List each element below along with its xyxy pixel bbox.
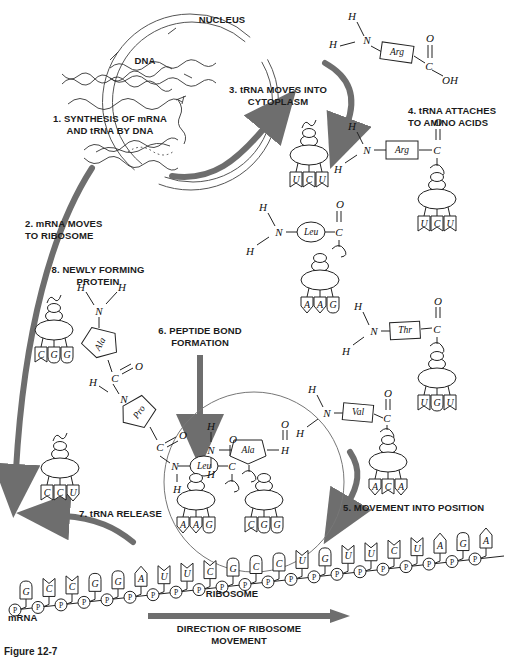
atom-n: N — [323, 407, 330, 419]
phosphate-letter: P — [243, 580, 247, 589]
phosphate-letter: P — [473, 555, 477, 564]
step-6-label: 6. PEPTIDE BOND FORMATION — [158, 325, 241, 348]
amino-acid-leu-charged — [257, 211, 346, 257]
residue-leu: Leu — [304, 227, 318, 237]
step-5-label: 5. MOVEMENT INTO POSITION — [343, 502, 484, 514]
atom-h: H — [118, 281, 126, 293]
phosphate-letter: P — [450, 557, 454, 566]
mrna-base-letter: U — [160, 570, 167, 581]
phosphate-letter: P — [266, 577, 270, 586]
anticodon-letter: A — [180, 519, 186, 530]
protein-synthesis-diagram: NUCLEUS DNA 1. SYNTHESIS OF mRNA AND tRN… — [0, 0, 522, 658]
mrna-base-letter: A — [138, 573, 144, 584]
atom-n: N — [370, 325, 377, 337]
phosphate-letter: P — [220, 583, 224, 592]
phosphate-letter: P — [289, 575, 293, 584]
anticodon-letter: C — [57, 487, 64, 498]
anticodon-letter: C — [38, 349, 45, 360]
atom-o: O — [434, 116, 442, 128]
atom-c: C — [335, 226, 342, 238]
mrna-base-letter: C — [69, 580, 76, 591]
mrna-base-letter: G — [459, 537, 466, 548]
phosphate-letter: P — [404, 562, 408, 571]
mrna-base-letter: G — [229, 563, 236, 574]
mrna-base-letter: A — [437, 540, 443, 551]
atom-o: O — [229, 433, 237, 445]
atom-h: H — [173, 483, 181, 495]
phosphate-letter: P — [427, 560, 431, 569]
anticodon-letter: C — [385, 481, 392, 492]
atom-c: C — [433, 323, 440, 335]
phosphate-letter: P — [174, 588, 178, 597]
atom-h: H — [246, 245, 254, 257]
atom-n: N — [363, 34, 370, 46]
step-3-label: 3. tRNA MOVES INTO CYTOPLASM — [229, 84, 327, 107]
phosphate-letter: P — [335, 570, 339, 579]
mrna-base-letter: C — [253, 560, 260, 571]
atom-c: C — [111, 372, 118, 384]
mrna-base-letter: C — [46, 583, 53, 594]
atom-n: N — [275, 226, 282, 238]
atom-c: C — [383, 412, 390, 424]
anticodon-letter: G — [329, 299, 336, 310]
step-1-label: 1. SYNTHESIS OF mRNA AND tRNA BY DNA — [53, 113, 167, 136]
anticodon-letter: C — [248, 519, 255, 530]
atom-h: H — [281, 444, 289, 456]
atom-h: H — [77, 281, 85, 293]
atom-n: N — [171, 460, 178, 472]
atom-o: O — [426, 32, 434, 44]
mrna-base-letter: A — [483, 535, 489, 546]
anticodon-letter: A — [193, 519, 199, 530]
phosphate-letter: P — [105, 595, 109, 604]
atom-h: H — [207, 420, 215, 432]
mrna-base-letter: G — [321, 552, 328, 563]
mrna-base-letter: C — [391, 545, 398, 556]
anticodon-letter: U — [420, 397, 427, 408]
atom-n: N — [95, 305, 102, 317]
anticodon-letter: C — [306, 174, 313, 185]
mrna-base-letter: G — [114, 575, 121, 586]
atom-h: H — [308, 383, 316, 395]
atom-o: O — [281, 418, 289, 430]
amino-acid-val-charged — [307, 395, 394, 440]
anticodon-letter: G — [63, 349, 70, 360]
residue-thr: Thr — [398, 325, 412, 335]
anticodon-letter: U — [292, 174, 299, 185]
phosphate-letter: P — [312, 572, 316, 581]
ribosome-label: RIBOSOME — [206, 588, 259, 600]
phosphate-letter: P — [381, 565, 385, 574]
atom-h: H — [259, 201, 267, 213]
atom-oh: OH — [442, 74, 458, 86]
atom-o: O — [336, 198, 344, 210]
mrna-base-letter: G — [91, 578, 98, 589]
atom-h: H — [334, 163, 342, 175]
atom-n: N — [363, 144, 370, 156]
phosphate-letter: P — [36, 603, 40, 612]
anticodon-letter: G — [260, 519, 267, 530]
dna-label: DNA — [135, 55, 156, 67]
step-2-label: 2. mRNA MOVES TO RIBOSOME — [25, 218, 103, 241]
atom-c: C — [228, 460, 235, 472]
mrna-base-letter: U — [367, 547, 374, 558]
atom-c: C — [425, 60, 432, 72]
anticodon-letter: A — [372, 481, 378, 492]
anticodon-letter: U — [446, 218, 453, 229]
atom-o: O — [135, 360, 143, 372]
anticodon-letter: G — [50, 349, 57, 360]
anticodon-letter: U — [420, 218, 427, 229]
anticodon-letter: U — [69, 487, 76, 498]
step-4-label: 4. tRNA ATTACHES TO AMINO ACIDS — [408, 105, 496, 128]
atom-c: C — [433, 144, 440, 156]
atom-n: N — [207, 444, 214, 456]
anticodon-letter: A — [317, 299, 323, 310]
atom-h: H — [348, 10, 356, 22]
residue-ala: Ala — [241, 445, 254, 455]
growing-protein-chain — [79, 292, 239, 492]
atom-h: H — [329, 38, 337, 50]
anticodon-letter: G — [433, 397, 440, 408]
residue-arg: Arg — [395, 145, 409, 155]
mrna-base-letter: U — [183, 568, 190, 579]
mrna-base-letter: C — [276, 557, 283, 568]
anticodon-letter: A — [398, 481, 404, 492]
step-8-label: 8. NEWLY FORMING PROTEIN — [52, 264, 145, 287]
